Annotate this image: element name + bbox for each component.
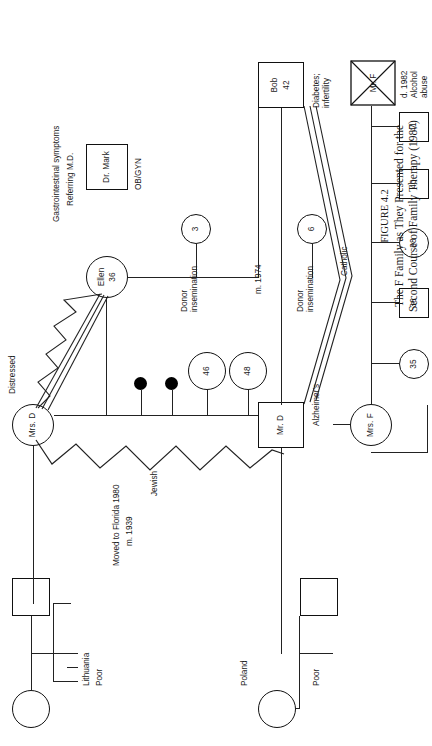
branch-f-bob-h	[427, 405, 428, 453]
label-obgyn: OB/GYN	[134, 158, 144, 190]
person-label: Dr. Mark	[102, 145, 111, 189]
label-poor-bottom: Poor	[312, 669, 322, 686]
fused-conflictual-line-mrsd-ellen	[28, 290, 114, 410]
label-distressed: Distressed	[8, 355, 18, 394]
line-bob-to-f-family	[281, 108, 282, 405]
marriage-line-ellen-bob-h	[258, 108, 259, 278]
sibling-drop-mrsd	[53, 603, 71, 604]
label-donor-insemination-1-a: Donor	[180, 290, 190, 312]
label-lithuania: Lithuania	[82, 653, 92, 686]
branch-d-dot1	[141, 390, 142, 416]
sibling-drop-b	[67, 667, 78, 668]
label-referring-md: Referring M.D.	[66, 153, 76, 206]
label-donor-insemination-2-b: insemination	[306, 266, 316, 312]
sibling-drop-a	[53, 681, 78, 682]
genogram-figure: Lithuania Poor Poland Poor Mrs. D Mr. D …	[0, 0, 432, 746]
person-label: Mrs. F	[366, 405, 375, 445]
person-label: 6	[307, 215, 316, 243]
person-child-6: 6	[297, 214, 327, 244]
marriage-line-poland	[299, 616, 300, 709]
branch-d-dot2	[172, 390, 173, 416]
figure-caption-line-2: Second Course of Family Therapy (1987)	[406, 16, 420, 416]
figure-number: FIGURE 4.2	[378, 16, 392, 416]
pregnancy-loss-marker-1	[134, 377, 147, 390]
sibship-stem-lithuania	[31, 653, 78, 654]
label-jewish: Jewish	[150, 471, 160, 496]
label-moved-florida: Moved to Florida 1980	[112, 485, 122, 566]
branch-f-bob	[371, 452, 427, 453]
sibship-bar-lithuania	[53, 604, 54, 682]
person-grandmother-poland	[258, 690, 296, 728]
person-label: 46	[202, 353, 211, 389]
person-grandmother-lithuania	[12, 690, 50, 728]
line-mrsf-origin	[333, 424, 350, 425]
label-poor-top: Poor	[95, 669, 105, 686]
conflictual-marriage-line-mrd-mrsd	[30, 440, 292, 494]
label-married-1939: m. 1939	[125, 516, 135, 546]
person-bob: Bob 42	[258, 62, 304, 108]
person-dr-mark: Dr. Mark	[86, 144, 128, 190]
person-label: 3	[191, 215, 200, 243]
branch-d-48	[248, 390, 249, 416]
label-married-1974: m. 1974	[254, 264, 264, 294]
person-grandfather-poland	[300, 578, 338, 616]
label-donor-insemination-1-b: insemination	[190, 266, 200, 312]
figure-caption-line-1: The F Family as They Presented for the	[392, 16, 406, 416]
sibship-spine-d	[54, 415, 258, 416]
figure-caption: FIGURE 4.2 The F Family as They Presente…	[378, 16, 420, 416]
person-d-child-48: 48	[229, 352, 267, 390]
person-label: Mrs. D	[28, 405, 37, 445]
person-grandfather-lithuania	[12, 578, 50, 616]
person-child-3: 3	[181, 214, 211, 244]
label-gastrointestinal-symptoms: Gastrointestinal symptoms	[52, 126, 62, 222]
person-age: 42	[282, 63, 291, 107]
label-donor-insemination-2-a: Donor	[296, 290, 306, 312]
person-label: Bob	[270, 63, 279, 107]
label-mrf-abuse: abuse	[420, 76, 430, 98]
person-label: 48	[243, 353, 252, 389]
branch-d-46	[207, 390, 208, 416]
label-bob-diabetes: Diabetes;	[312, 73, 322, 108]
pregnancy-loss-marker-2	[165, 377, 178, 390]
sibship-stem-poland	[299, 653, 333, 654]
fused-line-mrd-bob	[296, 104, 372, 406]
person-d-child-46: 46	[188, 352, 226, 390]
label-poland: Poland	[240, 661, 250, 687]
